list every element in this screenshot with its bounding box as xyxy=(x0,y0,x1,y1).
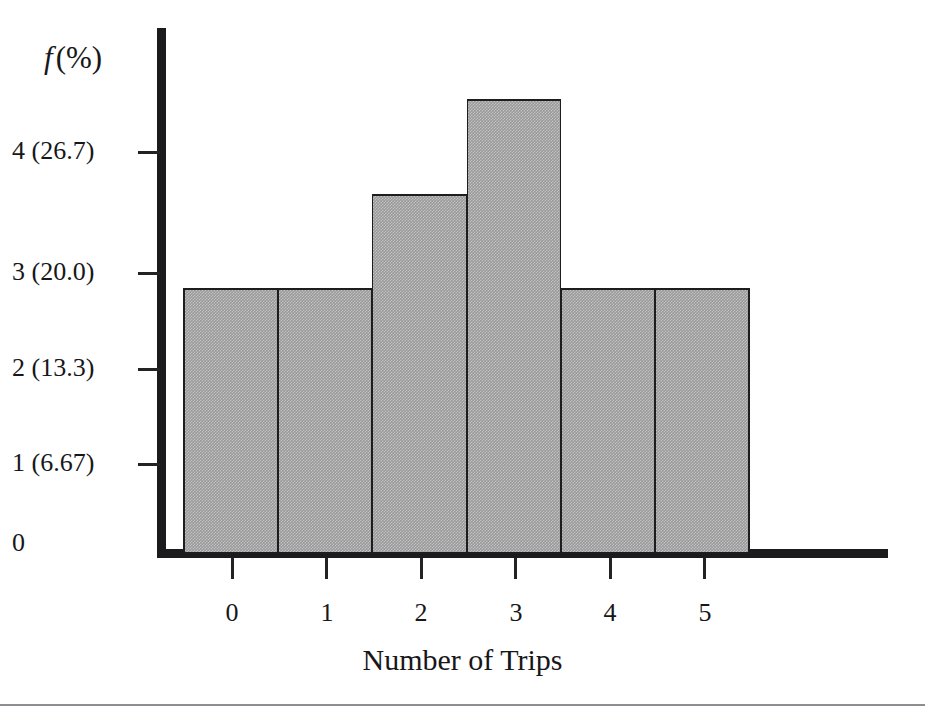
x-tick-label-0: 0 xyxy=(202,600,262,626)
x-tick-label-3: 3 xyxy=(486,600,546,626)
bar-4[interactable] xyxy=(561,288,655,554)
y-axis-label-symbol: f xyxy=(44,40,56,75)
plot-area xyxy=(183,28,750,554)
y-axis-label: f(%) xyxy=(44,42,102,73)
y-tick-mark-1 xyxy=(138,463,160,466)
bar-series xyxy=(183,28,750,554)
x-tick-label-2: 2 xyxy=(391,600,451,626)
x-tick-label-5: 5 xyxy=(675,600,735,626)
bar-0[interactable] xyxy=(183,288,278,554)
y-tick-mark-3 xyxy=(138,272,160,275)
x-axis-title: Number of Trips xyxy=(0,645,925,675)
page-bottom-rule xyxy=(0,704,925,706)
x-tick-mark-1 xyxy=(325,558,328,579)
y-tick-label-4: 4 (26.7) xyxy=(12,138,132,164)
y-tick-mark-4 xyxy=(138,151,160,154)
y-axis-line xyxy=(157,28,166,558)
y-tick-label-0: 0 xyxy=(12,530,132,556)
bar-3[interactable] xyxy=(467,99,561,554)
y-tick-label-3: 3 (20.0) xyxy=(12,259,132,285)
bar-1[interactable] xyxy=(278,288,372,554)
y-tick-label-1: 1 (6.67) xyxy=(12,450,132,476)
y-axis-label-unit: (%) xyxy=(56,40,102,75)
x-tick-mark-3 xyxy=(514,558,517,579)
x-tick-mark-4 xyxy=(609,558,612,579)
x-tick-mark-2 xyxy=(420,558,423,579)
histogram-figure: f(%) 4 (26.7) 3 (20.0) 2 (13.3) 1 (6.67)… xyxy=(0,0,925,720)
x-tick-label-1: 1 xyxy=(297,600,357,626)
x-tick-label-4: 4 xyxy=(580,600,640,626)
y-tick-label-2: 2 (13.3) xyxy=(12,355,132,381)
bar-2[interactable] xyxy=(372,194,466,554)
x-tick-mark-5 xyxy=(703,558,706,579)
bar-5[interactable] xyxy=(655,288,750,554)
x-tick-mark-0 xyxy=(231,558,234,579)
y-tick-mark-2 xyxy=(138,368,160,371)
